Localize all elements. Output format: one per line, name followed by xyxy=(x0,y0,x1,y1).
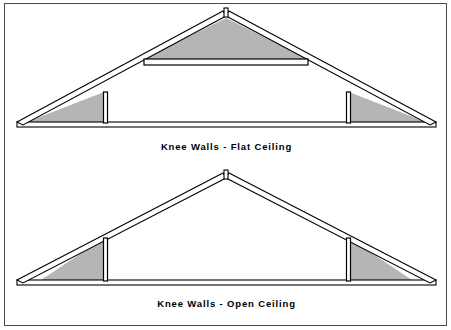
attic-insulation-triangle xyxy=(144,18,308,59)
right-rafter xyxy=(226,11,436,125)
ridge-stub xyxy=(224,8,228,17)
ridge-stub xyxy=(224,170,228,179)
floor-joist xyxy=(17,280,436,285)
right-knee-wall xyxy=(347,92,351,123)
caption-open-ceiling: Knee Walls - Open Ceiling xyxy=(5,298,448,309)
left-rafter xyxy=(17,173,226,283)
figure-root: Knee Walls - Flat Ceiling xyxy=(0,0,451,330)
floor-joist xyxy=(17,122,436,127)
right-rafter xyxy=(226,173,436,283)
left-knee-wall xyxy=(104,92,108,123)
diagram-knee-walls-open-ceiling: Knee Walls - Open Ceiling xyxy=(5,166,448,327)
flat-ceiling-tie xyxy=(144,59,308,65)
diagram-knee-walls-flat-ceiling: Knee Walls - Flat Ceiling xyxy=(5,4,448,166)
left-rafter xyxy=(17,11,226,125)
figure-border: Knee Walls - Flat Ceiling xyxy=(4,3,447,326)
truss-cross-section-open xyxy=(5,166,448,296)
right-knee-wall xyxy=(347,238,351,281)
truss-cross-section-flat xyxy=(5,4,448,140)
caption-flat-ceiling: Knee Walls - Flat Ceiling xyxy=(5,141,448,152)
left-knee-wall xyxy=(104,238,108,281)
